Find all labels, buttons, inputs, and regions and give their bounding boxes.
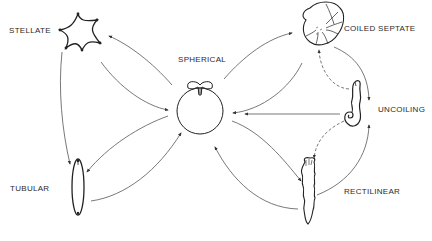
uncoiling-shape-icon [345,81,361,126]
coiled-septate-shape-icon [303,2,344,45]
label-rectilinear: RECTILINEAR [344,187,400,196]
label-coiled-septate: COILED SEPTATE [344,24,415,33]
tubular-shape-icon [72,159,84,215]
rectilinear-shape-icon [301,158,315,224]
label-spherical: SPHERICAL [178,55,226,64]
label-tubular: TUBULAR [10,184,49,193]
spherical-shape-icon [177,82,223,134]
stellate-shape-icon [59,13,102,52]
dashed-transition-arrows [314,50,349,158]
label-stellate: STELLATE [9,26,51,35]
label-uncoiling: UNCOILING [378,105,425,114]
diagram-graphics [0,0,432,241]
diagram-canvas: STELLATE SPHERICAL COILED SEPTATE UNCOIL… [0,0,432,241]
